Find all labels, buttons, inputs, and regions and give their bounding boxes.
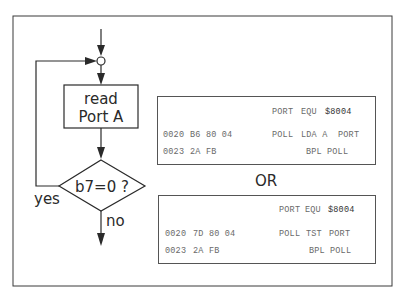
no-branch-arrow — [97, 211, 105, 246]
listing1-row1-bytes: B6 80 04 — [190, 130, 232, 140]
listing1-row1-operand: PORT — [338, 130, 359, 140]
listing1-row2-operand: POLL — [327, 147, 348, 157]
listing2-row1-operand: PORT — [329, 229, 350, 239]
process-line2: Port A — [79, 108, 125, 126]
no-label: no — [106, 212, 125, 230]
process-line1: read — [84, 90, 118, 108]
arrow-to-process — [97, 65, 105, 85]
entry-arrow — [97, 29, 105, 56]
arrow-to-decision — [97, 128, 105, 159]
listing2-row2-addr: 0023 — [165, 246, 186, 256]
listing1-row2-bytes: 2A FB — [190, 147, 217, 157]
listing1-row2-addr: 0023 — [163, 147, 184, 157]
junction-node — [97, 57, 105, 65]
listing2-row2-operand: POLL — [330, 246, 351, 256]
listing2-row2-bytes: 2A FB — [193, 246, 220, 256]
listing2-row1-bytes: 7D 80 04 — [193, 229, 235, 239]
listing1-header-label: PORT — [272, 107, 293, 117]
listing1-header-operand: $8004 — [325, 107, 352, 117]
listing1-header-op: EQU — [301, 107, 317, 117]
listing1-row2-op: BPL — [306, 147, 322, 157]
listing2-header-op: EQU — [305, 205, 321, 215]
listing2-row1-addr: 0020 — [165, 229, 186, 239]
yes-label: yes — [34, 190, 60, 208]
listing2-header-operand: $8004 — [328, 205, 355, 215]
decision-label: b7=0 ? — [75, 178, 129, 196]
listing2-header-label: PORT — [279, 205, 300, 215]
listing1-row1-label: POLL — [272, 130, 293, 140]
listing1-row1-op: LDA A — [301, 130, 328, 140]
listing1-row1-addr: 0020 — [163, 130, 184, 140]
listing2-row2-op: BPL — [309, 246, 325, 256]
figure: read Port A b7=0 ? yes no OR PORT EQU $8… — [0, 0, 400, 296]
listing2-row1-op: TST — [306, 229, 322, 239]
listing2-row1-label: POLL — [279, 229, 300, 239]
or-separator: OR — [255, 172, 277, 190]
